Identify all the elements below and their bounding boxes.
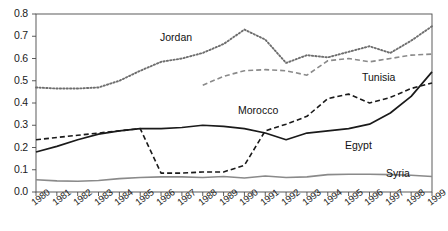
y-axis-tick-label: 0.0 bbox=[2, 185, 28, 197]
series-label-tunisia: Tunisia bbox=[362, 71, 395, 83]
y-axis-tick-label: 0.1 bbox=[2, 163, 28, 175]
y-axis-tick-label: 0.8 bbox=[2, 7, 28, 19]
y-axis-tick-label: 0.4 bbox=[2, 96, 28, 108]
series-line-syria bbox=[36, 174, 432, 181]
plot-frame bbox=[36, 14, 432, 192]
series-label-jordan: Jordan bbox=[160, 31, 192, 43]
series-line-tunisia bbox=[203, 54, 432, 85]
y-axis-tick-label: 0.2 bbox=[2, 141, 28, 153]
y-axis-tick-label: 0.5 bbox=[2, 74, 28, 86]
series-line-egypt bbox=[36, 72, 432, 152]
y-axis-tick-label: 0.6 bbox=[2, 52, 28, 64]
y-axis-tick-label: 0.7 bbox=[2, 29, 28, 41]
series-label-syria: Syria bbox=[386, 167, 410, 179]
y-axis-tick-label: 0.3 bbox=[2, 118, 28, 130]
series-label-morocco: Morocco bbox=[238, 104, 278, 116]
series-label-egypt: Egypt bbox=[345, 139, 372, 151]
